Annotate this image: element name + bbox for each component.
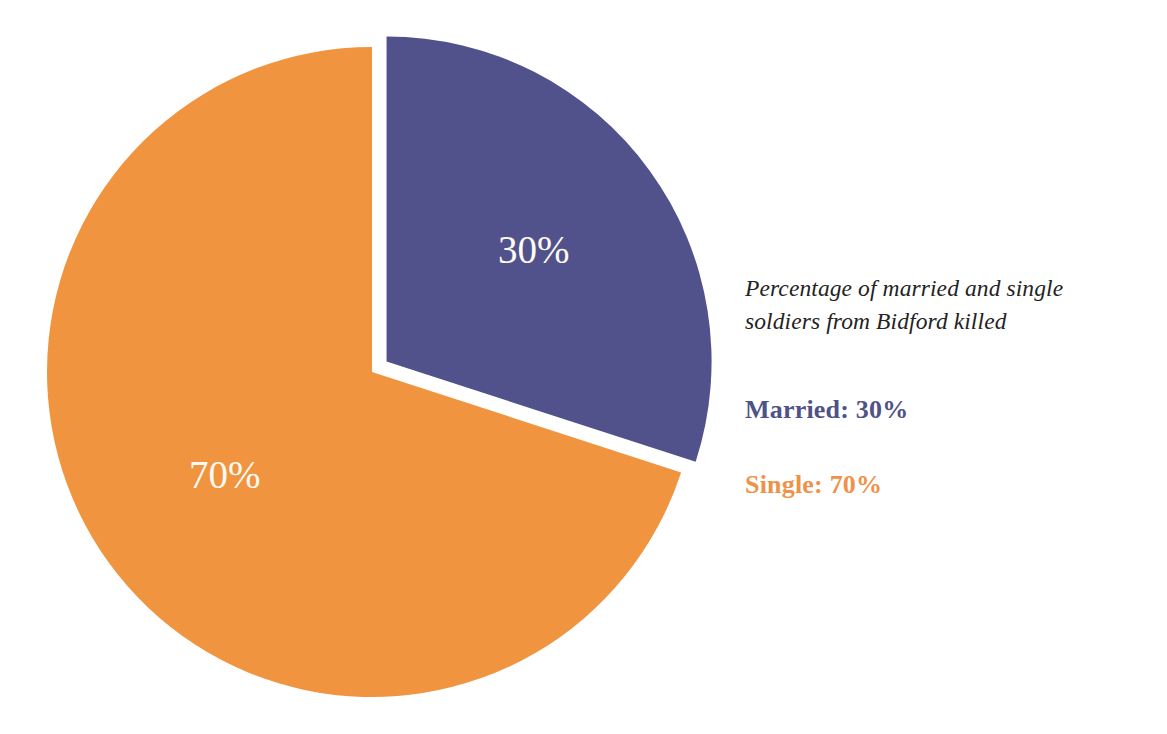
chart-caption-line-1: Percentage of married and single: [745, 272, 1075, 305]
chart-legend: Percentage of married and single soldier…: [745, 272, 1145, 500]
pie-chart-svg: 30% 70%: [0, 0, 740, 734]
chart-caption: Percentage of married and single soldier…: [745, 272, 1075, 338]
chart-canvas: 30% 70% Percentage of married and single…: [0, 0, 1167, 734]
pie-slice-label-single: 70%: [189, 453, 261, 496]
pie-slice-label-married: 30%: [498, 228, 570, 271]
pie-chart: 30% 70%: [0, 0, 740, 734]
chart-caption-line-2: soldiers from Bidford killed: [745, 305, 1075, 338]
legend-item-married[interactable]: Married: 30%: [745, 395, 1145, 425]
legend-item-single[interactable]: Single: 70%: [745, 470, 1145, 500]
